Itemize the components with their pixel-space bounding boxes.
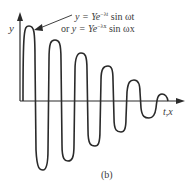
equation-line-2: or y = Ye−λx sin ωx xyxy=(61,21,135,34)
damped-wave-curve xyxy=(23,26,168,170)
annotation-arrow-icon xyxy=(34,24,43,31)
figure-caption: (b) xyxy=(101,169,113,180)
x-axis-label: t,x xyxy=(163,106,173,117)
damped-oscillation-figure: y t,x y = Ye−λt sin ωt or y = Ye−λx sin … xyxy=(0,0,193,187)
equation-2-sine: sin ωx xyxy=(106,23,134,34)
x-axis-arrow-icon xyxy=(176,98,185,104)
y-axis-arrow-icon xyxy=(17,12,23,21)
equation-2-base: y = Ye xyxy=(72,23,97,34)
equation-2-or: or xyxy=(61,23,72,34)
y-axis-label: y xyxy=(9,22,14,34)
